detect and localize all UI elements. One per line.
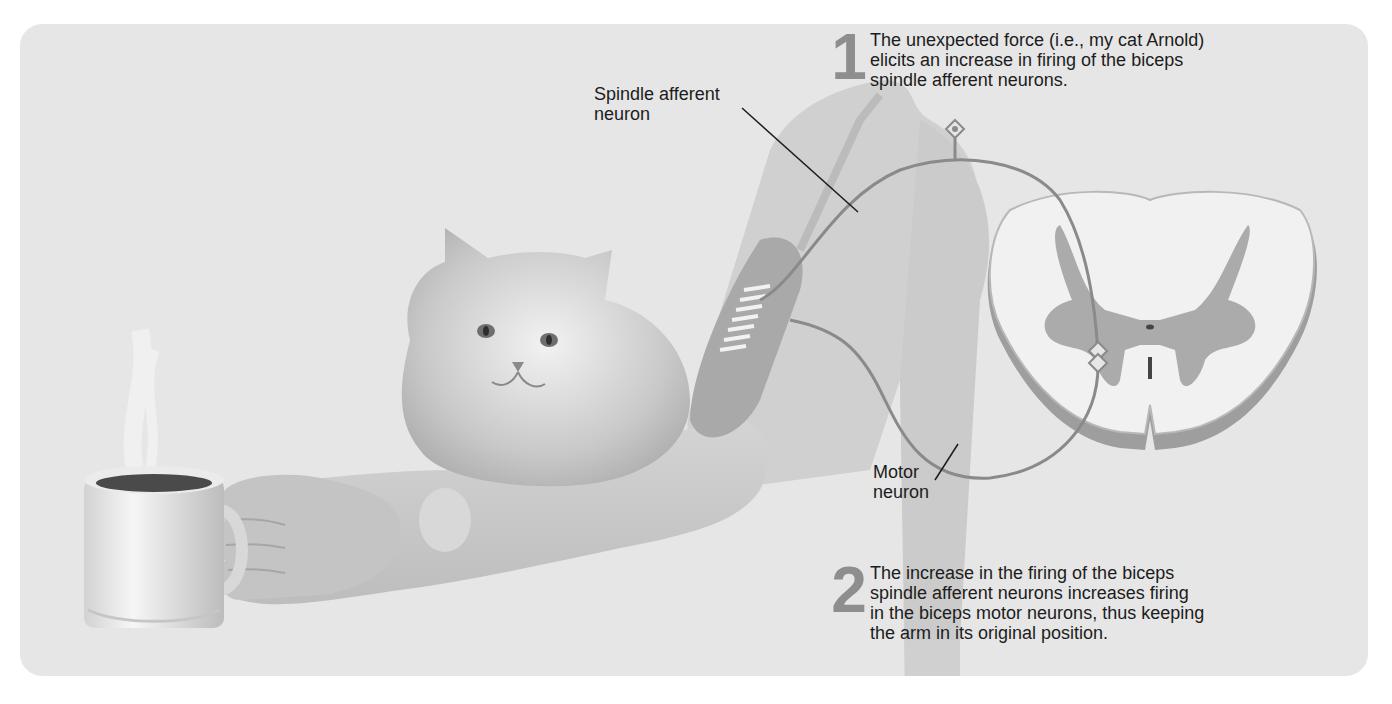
step-text: The increase in the firing of the biceps… [870,563,1204,643]
step-text: The unexpected force (i.e., my cat Arnol… [870,30,1204,90]
step-1-callout: 1 The unexpected force (i.e., my cat Arn… [830,30,1204,90]
label-spindle-afferent-neuron: Spindle afferent neuron [594,84,720,124]
step-2-callout: 2 The increase in the firing of the bice… [830,563,1204,643]
label-motor-neuron: Motor neuron [873,462,929,502]
step-number: 1 [830,30,868,84]
coffee-mug [84,466,242,628]
spinal-cord-cross-section [988,192,1317,450]
steam [133,330,155,470]
step-number: 2 [830,563,868,617]
